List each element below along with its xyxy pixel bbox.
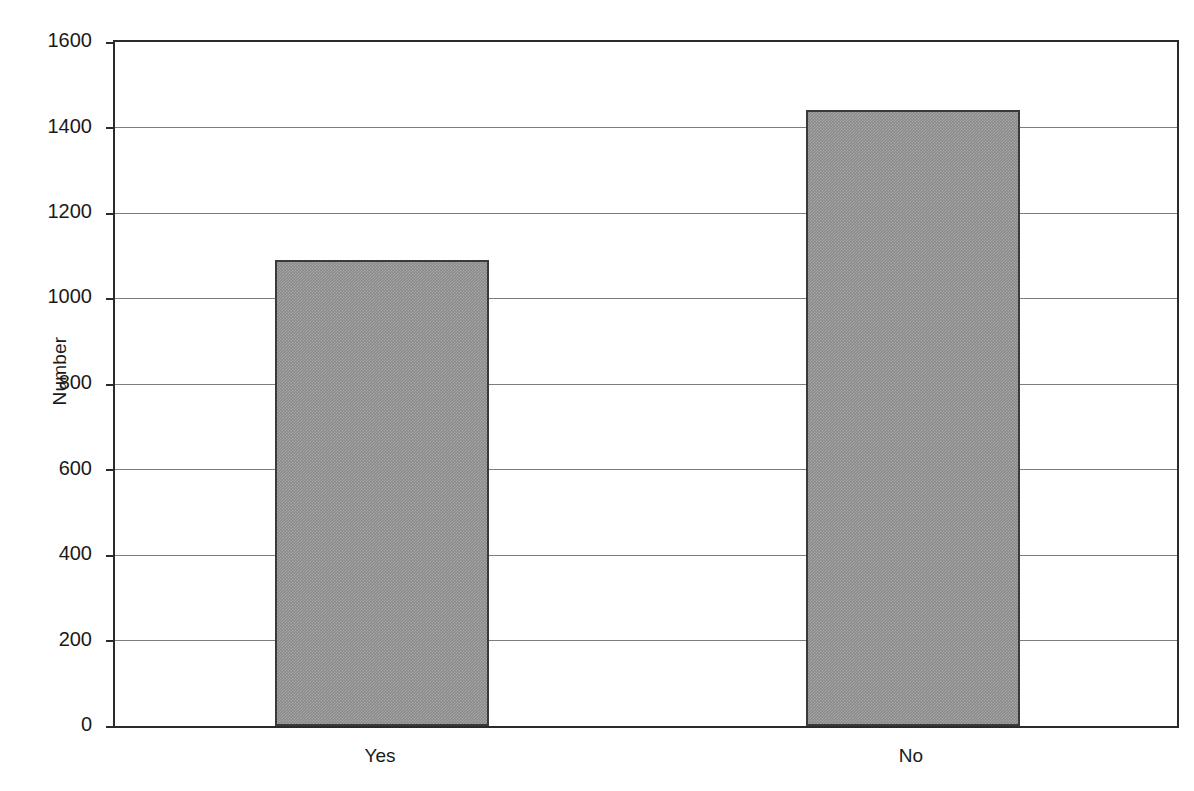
y-tick-1400: [106, 127, 115, 129]
bar-no[interactable]: [806, 110, 1020, 726]
bar-yes[interactable]: [275, 260, 489, 726]
y-tick-0: [106, 726, 115, 728]
y-tick-200: [106, 640, 115, 642]
y-tick-1600: [106, 42, 115, 44]
plot-area: [113, 40, 1179, 728]
y-tick-label: 1000: [0, 285, 92, 308]
bar-chart: Number 1600 1400 1200 1000 800 600 400 2…: [0, 0, 1194, 791]
y-tick-label: 600: [0, 457, 92, 480]
y-tick-label: 1600: [0, 29, 92, 52]
y-tick-600: [106, 469, 115, 471]
y-tick-label: 1200: [0, 200, 92, 223]
y-tick-label: 200: [0, 628, 92, 651]
y-tick-label: 0: [0, 713, 92, 736]
y-tick-1000: [106, 298, 115, 300]
y-tick-400: [106, 555, 115, 557]
x-tick-label-no: No: [781, 745, 1041, 767]
x-tick-label-yes: Yes: [250, 745, 510, 767]
y-axis-title: Number: [49, 311, 71, 431]
y-tick-1200: [106, 213, 115, 215]
y-tick-label: 800: [0, 371, 92, 394]
y-tick-label: 1400: [0, 115, 92, 138]
y-tick-800: [106, 384, 115, 386]
y-tick-label: 400: [0, 542, 92, 565]
